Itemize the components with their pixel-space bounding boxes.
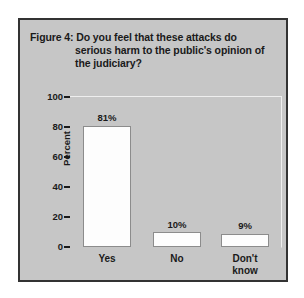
x-axis-label-yes: Yes (69, 253, 145, 265)
bar-group-yes: 81% Yes (83, 97, 131, 247)
bar-group-dont-know: 9% Don't know (221, 97, 269, 247)
y-axis-tick-label-100: 100 (47, 92, 64, 102)
bar-dont-know[interactable] (221, 234, 269, 248)
x-axis-label-dont-know: Don't know (207, 253, 283, 277)
y-axis-tick-label-60: 60 (52, 152, 64, 162)
figure-root: Figure 4: Do you feel that these attacks… (0, 0, 304, 298)
y-axis-tick-label-40: 40 (52, 182, 64, 192)
plot-area: Percent 100 80 60 40 20 (68, 96, 282, 248)
figure-title-line-3: the judiciary? (30, 57, 282, 70)
bar-no[interactable] (153, 232, 201, 247)
y-axis-tick-label-80: 80 (52, 122, 64, 132)
figure-title: Figure 4: Do you feel that these attacks… (30, 31, 282, 70)
figure-title-line-2: serious harm to the public's opinion of (30, 44, 282, 57)
bar-yes[interactable] (83, 126, 131, 248)
bar-group-no: 10% No (153, 97, 201, 247)
bars-layer: 81% Yes 10% No 9% Don't (69, 97, 281, 247)
bar-value-yes: 81% (83, 112, 131, 123)
figure-title-line-1: Figure 4: Do you feel that these attacks… (30, 31, 282, 44)
figure-frame: Figure 4: Do you feel that these attacks… (18, 18, 288, 282)
x-axis-label-dont-know-line-1: Don't (207, 253, 283, 265)
bar-value-no: 10% (153, 219, 201, 230)
x-axis-label-dont-know-line-2: know (207, 265, 283, 277)
y-axis-tick-label-20: 20 (52, 212, 64, 222)
bar-value-dont-know: 9% (221, 220, 269, 231)
x-axis-label-no: No (139, 253, 215, 265)
x-axis-label-yes-line-1: Yes (69, 253, 145, 265)
x-axis-label-no-line-1: No (139, 253, 215, 265)
y-axis-tick-label-0: 0 (58, 242, 64, 252)
